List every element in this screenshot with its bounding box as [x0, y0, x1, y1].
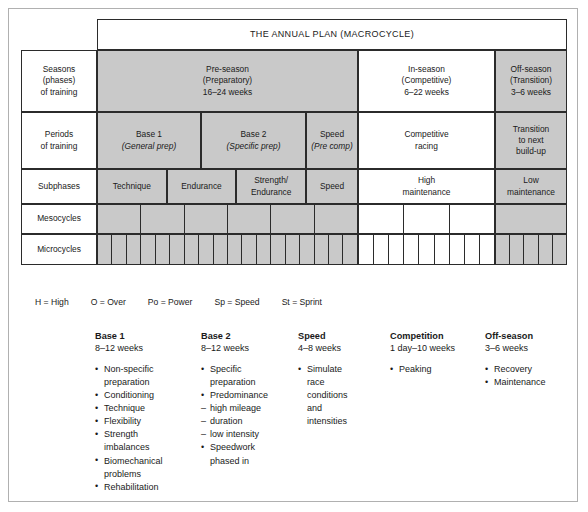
cycle-tick: [539, 235, 553, 264]
subphase-cell-low-maintenance: Low maintenance: [495, 169, 567, 204]
phase-column-list: RecoveryMaintenance: [485, 363, 565, 388]
microcycle-ticks-offseason: [496, 235, 566, 264]
detail-bullet-continuation: imbalances: [95, 441, 191, 453]
cycle-tick: [496, 235, 510, 264]
phase-column-list: SpecificpreparationPredominancehigh mile…: [201, 363, 288, 466]
phase-column-heading: Base 1: [95, 331, 191, 343]
phase-column-heading: Competition: [390, 331, 475, 343]
mesocycle-segment-preseason: [97, 204, 358, 234]
preseason-line2: (Preparatory): [203, 75, 252, 86]
base2-line2: (Specific prep): [227, 141, 281, 152]
microcycle-ticks-preseason: [98, 235, 357, 264]
detail-sub-item: duration: [201, 415, 288, 427]
cycle-tick: [359, 205, 404, 233]
detail-bullet: Speedwork: [201, 441, 288, 453]
cycle-tick: [141, 235, 155, 264]
periods-label-line1: Periods: [41, 129, 78, 140]
phase-column-list: Simulateraceconditionsandintensities: [298, 363, 380, 427]
table-row-seasons: Seasons (phases) of training Pre-season …: [21, 50, 567, 112]
preseason-line1: Pre-season: [203, 64, 252, 75]
table-row-subphases: Subphases Technique Endurance Strength/ …: [21, 169, 567, 204]
poster-frame: THE ANNUAL PLAN (MACROCYCLE) Seasons (ph…: [8, 8, 578, 502]
table-row-microcycles: Microcycles: [21, 234, 567, 265]
offseason-line2: (Transition): [510, 75, 552, 86]
cycle-tick: [300, 235, 314, 264]
detail-bullet: Peaking: [390, 363, 475, 375]
low-maintenance-line2: maintenance: [507, 187, 555, 198]
detail-bullet-continuation: preparation: [201, 376, 288, 388]
preseason-line3: 16–24 weeks: [203, 87, 252, 98]
legend-entry: Sp = Speed: [214, 297, 259, 307]
table-row-periods: Periods of training Base 1 (General prep…: [21, 112, 567, 169]
inseason-line2: (Competitive): [402, 75, 452, 86]
detail-bullet: Specific: [201, 363, 288, 375]
legend-entry: St = Sprint: [282, 297, 322, 307]
cycle-tick: [329, 235, 343, 264]
detail-bullet-continuation: and: [298, 402, 380, 414]
phase-column: Base 28–12 weeksSpecificpreparationPredo…: [201, 331, 298, 494]
phase-column: Speed4–8 weeksSimulateraceconditionsandi…: [298, 331, 390, 494]
mesocycle-segment-inseason: [358, 204, 495, 234]
cycle-tick: [496, 205, 566, 233]
phase-column: Competition1 day–10 weeksPeaking: [390, 331, 485, 494]
cycle-tick: [510, 235, 524, 264]
phase-column-duration: 1 day–10 weeks: [390, 343, 475, 355]
subphase-cell-strength-endurance: Strength/ Endurance: [236, 169, 306, 204]
detail-bullet: Strength: [95, 428, 191, 440]
cycle-tick: [156, 235, 170, 264]
cycle-tick: [286, 235, 300, 264]
phase-column-duration: 3–6 weeks: [485, 343, 565, 355]
base1-line2: (General prep): [122, 141, 176, 152]
cycle-tick: [127, 235, 141, 264]
transition-line3: build-up: [513, 146, 549, 157]
cycle-tick: [359, 235, 374, 264]
title-row-spacer: [21, 19, 97, 50]
transition-line2: to next: [513, 135, 549, 146]
microcycle-segment-inseason: [358, 234, 495, 265]
mesocycle-ticks-offseason: [496, 205, 566, 233]
detail-bullet: Recovery: [485, 363, 565, 375]
low-maintenance-line1: Low: [507, 175, 555, 186]
detail-bullet: Non-specific: [95, 363, 191, 375]
cycle-tick: [98, 205, 141, 233]
subphase-cell-endurance: Endurance: [167, 169, 237, 204]
cycle-tick: [435, 235, 450, 264]
cycle-tick: [98, 235, 112, 264]
row-label-seasons: Seasons (phases) of training: [21, 50, 97, 112]
phase-column: Base 18–12 weeksNon-specificpreparationC…: [95, 331, 201, 494]
season-cell-inseason: In-season (Competitive) 6–22 weeks: [358, 50, 495, 112]
subphase-cell-technique: Technique: [97, 169, 167, 204]
inseason-line1: In-season: [402, 64, 452, 75]
mesocycle-ticks-inseason: [359, 205, 494, 233]
legend-entry: Po = Power: [148, 297, 193, 307]
cycle-tick: [315, 205, 357, 233]
detail-bullet: Conditioning: [95, 389, 191, 401]
abbreviation-legend: H = HighO = OverPo = PowerSp = SpeedSt =…: [35, 297, 322, 307]
row-label-subphases: Subphases: [21, 169, 97, 204]
detail-bullet-continuation: race: [298, 376, 380, 388]
legend-entry: O = Over: [91, 297, 126, 307]
detail-bullet: Maintenance: [485, 376, 565, 388]
racing-line2: racing: [404, 141, 448, 152]
high-maintenance-line1: High: [403, 175, 451, 186]
cycle-tick: [228, 235, 242, 264]
subphase-cell-high-maintenance: High maintenance: [358, 169, 495, 204]
seasons-label-line2: (phases): [41, 75, 78, 86]
strength-endurance-line2: Endurance: [251, 187, 292, 198]
table-row-mesocycles: Mesocycles: [21, 204, 567, 234]
detail-bullet: Predominance: [201, 389, 288, 401]
seasons-label-line1: Seasons: [41, 64, 78, 75]
cycle-tick: [271, 205, 314, 233]
transition-line1: Transition: [513, 124, 549, 135]
table-row-title: THE ANNUAL PLAN (MACROCYCLE): [21, 19, 567, 50]
period-cell-base1: Base 1 (General prep): [97, 112, 201, 169]
mesocycle-segment-offseason: [495, 204, 567, 234]
row-label-microcycles: Microcycles: [21, 234, 97, 265]
strength-endurance-line1: Strength/: [251, 175, 292, 186]
row-label-periods: Periods of training: [21, 112, 97, 169]
cycle-tick: [524, 235, 538, 264]
cycle-tick: [315, 235, 329, 264]
cycle-tick: [419, 235, 434, 264]
phase-column-list: Non-specificpreparationConditioningTechn…: [95, 363, 191, 492]
phase-column: Off-season3–6 weeksRecoveryMaintenance: [485, 331, 575, 494]
